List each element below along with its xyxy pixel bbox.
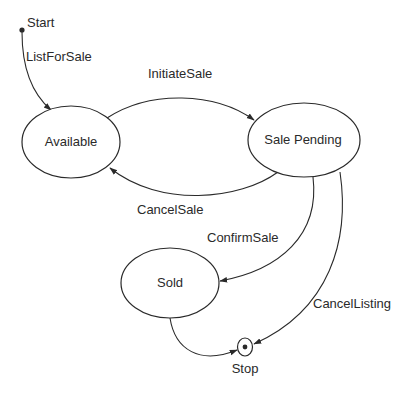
edge-label-list-for-sale: ListForSale bbox=[26, 49, 92, 64]
edge-list-for-sale: ListForSale bbox=[22, 32, 92, 110]
state-diagram: Start ListForSale InitiateSale CancelSal… bbox=[0, 0, 410, 397]
state-sale-pending[interactable]: Sale Pending bbox=[248, 103, 360, 177]
edge-label-confirm-sale: ConfirmSale bbox=[207, 230, 279, 245]
edge-label-cancel-sale: CancelSale bbox=[137, 202, 204, 217]
edge-label-cancel-listing: CancelListing bbox=[313, 296, 391, 311]
edge-sold-to-stop bbox=[170, 318, 237, 356]
state-sold[interactable]: Sold bbox=[121, 248, 219, 318]
edge-initiate-sale: InitiateSale bbox=[107, 66, 254, 120]
start-dot-icon bbox=[19, 27, 24, 32]
stop-label: Stop bbox=[232, 361, 259, 376]
state-label-sold: Sold bbox=[157, 275, 183, 290]
state-label-available: Available bbox=[45, 134, 98, 149]
edge-cancel-sale: CancelSale bbox=[110, 168, 278, 217]
edge-confirm-sale: ConfirmSale bbox=[207, 177, 314, 281]
stop-dot-icon bbox=[243, 345, 248, 350]
initial-state: Start bbox=[19, 15, 54, 33]
edge-cancel-listing: CancelListing bbox=[254, 172, 391, 344]
state-available[interactable]: Available bbox=[22, 106, 120, 178]
start-label: Start bbox=[27, 15, 55, 30]
state-label-sale-pending: Sale Pending bbox=[264, 132, 341, 147]
edge-label-initiate-sale: InitiateSale bbox=[148, 66, 212, 81]
